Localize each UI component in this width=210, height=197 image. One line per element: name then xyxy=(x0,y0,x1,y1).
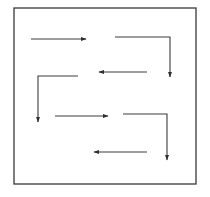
arrow-6-right-then-down-icon xyxy=(123,114,167,160)
arrow-4-left-then-down-icon xyxy=(38,76,78,122)
arrow-group xyxy=(31,37,170,160)
arrow-2-right-then-down-icon xyxy=(115,37,170,77)
diagram-frame xyxy=(14,8,196,184)
scan-path-diagram xyxy=(0,0,210,197)
